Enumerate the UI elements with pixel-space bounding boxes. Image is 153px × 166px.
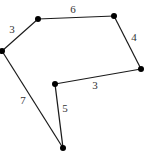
edge-EF <box>55 84 63 148</box>
edge-label-DE: 3 <box>92 79 98 91</box>
vertex-B <box>35 16 41 22</box>
edge-label-CD: 4 <box>131 31 137 43</box>
vertex-D <box>138 66 144 72</box>
edge-AB <box>2 19 38 51</box>
vertex-E <box>52 81 58 87</box>
edge-CD <box>114 16 141 69</box>
vertex-C <box>111 13 117 19</box>
edge-label-AB: 3 <box>9 23 15 35</box>
edge-label-FA: 7 <box>20 94 26 106</box>
vertex-F <box>60 145 66 151</box>
edge-FA <box>2 51 63 148</box>
edge-label-BC: 6 <box>70 3 76 15</box>
edge-DE <box>55 69 141 84</box>
edge-BC <box>38 16 114 19</box>
edge-label-EF: 5 <box>62 102 68 114</box>
polygon-diagram: 364357 <box>0 0 153 166</box>
